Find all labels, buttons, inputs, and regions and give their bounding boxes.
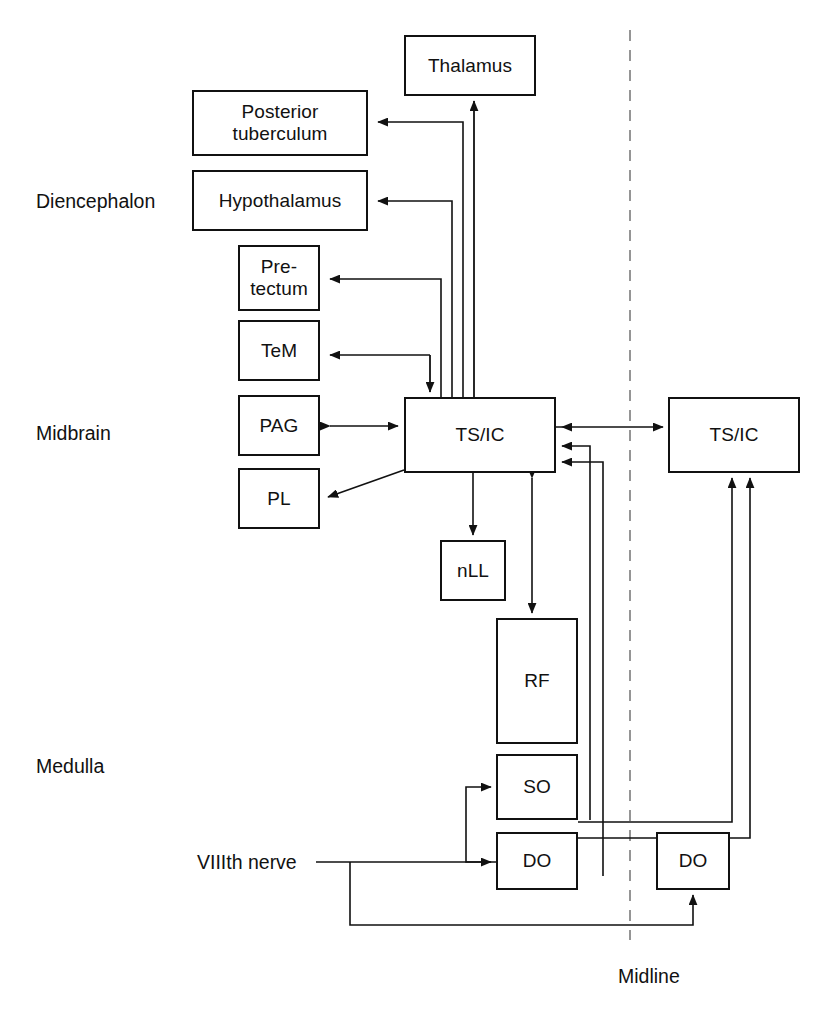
node-pag-label: PAG [255, 415, 302, 437]
node-pl[interactable]: PL [238, 468, 320, 529]
region-label-midbrain: Midbrain [36, 422, 111, 445]
node-so[interactable]: SO [496, 754, 578, 820]
node-posterior-tuberculum-label: Posterior tuberculum [225, 101, 336, 144]
node-tsic-right[interactable]: TS/IC [668, 397, 800, 473]
node-so-label: SO [519, 776, 555, 798]
node-do-left-label: DO [519, 850, 556, 872]
region-label-diencephalon: Diencephalon [36, 190, 155, 213]
region-label-medulla: Medulla [36, 755, 104, 778]
node-tsic-right-label: TS/IC [705, 424, 762, 446]
node-tsic-left-label: TS/IC [451, 424, 508, 446]
node-pag[interactable]: PAG [238, 395, 320, 456]
auditory-pathway-diagram: Thalamus Posterior tuberculum Hypothalam… [0, 0, 832, 1025]
conn-tsic-to-pretectum [330, 279, 441, 397]
node-nll[interactable]: nLL [440, 540, 506, 601]
viiith-nerve-label: VIIIth nerve [197, 851, 297, 874]
node-do-right[interactable]: DO [656, 832, 730, 890]
node-nll-label: nLL [453, 560, 493, 582]
node-do-right-label: DO [675, 850, 712, 872]
midline-label: Midline [618, 965, 680, 988]
node-thalamus[interactable]: Thalamus [404, 35, 536, 96]
node-rf-label: RF [520, 670, 554, 692]
node-hypothalamus-label: Hypothalamus [215, 190, 346, 212]
node-tem-label: TeM [257, 340, 301, 362]
node-posterior-tuberculum[interactable]: Posterior tuberculum [192, 90, 368, 156]
node-do-left[interactable]: DO [496, 832, 578, 890]
node-thalamus-label: Thalamus [424, 55, 516, 77]
node-pretectum-line2: tectum [246, 278, 312, 300]
node-posterior-tuberculum-line1: Posterior [229, 101, 332, 123]
node-hypothalamus[interactable]: Hypothalamus [192, 170, 368, 231]
node-tsic-left[interactable]: TS/IC [404, 397, 556, 473]
node-rf[interactable]: RF [496, 618, 578, 744]
node-pretectum-line1: Pre- [246, 256, 312, 278]
conn-so-to-tsic-right [578, 478, 732, 822]
node-posterior-tuberculum-line2: tuberculum [229, 123, 332, 145]
conn-tsic-to-pl [328, 470, 404, 497]
node-pl-label: PL [263, 488, 294, 510]
node-tem[interactable]: TeM [238, 320, 320, 381]
node-pretectum[interactable]: Pre- tectum [238, 245, 320, 311]
conn-do-left-to-so [466, 787, 496, 862]
node-pretectum-label: Pre- tectum [242, 256, 316, 299]
